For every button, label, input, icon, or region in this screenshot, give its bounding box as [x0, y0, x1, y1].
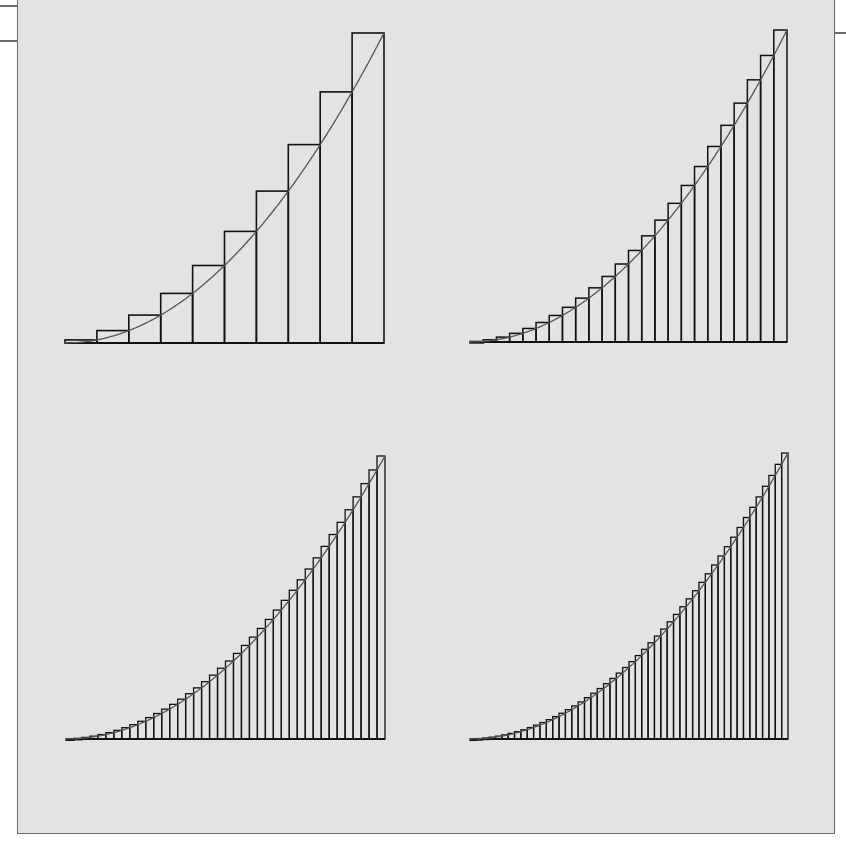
riemann-bar [782, 453, 788, 739]
riemann-bar [565, 710, 571, 739]
riemann-bar [629, 662, 635, 739]
riemann-bar [737, 527, 743, 739]
riemann-bar [661, 629, 667, 739]
riemann-bar [591, 693, 597, 739]
riemann-bar [775, 464, 781, 739]
riemann-bar [686, 599, 692, 739]
riemann-bar [604, 684, 610, 739]
riemann-bar [674, 614, 680, 739]
riemann-bar [584, 698, 590, 739]
riemann-bar [724, 547, 730, 739]
riemann-bar [597, 689, 603, 739]
riemann-bar [642, 649, 648, 739]
riemann-bar [705, 574, 711, 739]
riemann-bar [559, 713, 565, 739]
riemann-bar [763, 486, 769, 739]
riemann-bar [654, 636, 660, 739]
riemann-bar [712, 565, 718, 739]
riemann-bar [699, 582, 705, 739]
riemann-bar [553, 717, 559, 739]
riemann-bar [667, 622, 673, 739]
riemann-bar [680, 607, 686, 739]
riemann-bar [756, 497, 762, 739]
riemann-bar [610, 678, 616, 739]
riemann-bar [616, 673, 622, 739]
riemann-bar [623, 668, 629, 740]
riemann-bar [731, 537, 737, 739]
riemann-bar [743, 518, 749, 739]
riemann-bar [572, 706, 578, 739]
riemann-bar [718, 556, 724, 739]
riemann-panel-n50 [0, 0, 846, 856]
riemann-bar [648, 643, 654, 739]
riemann-bar [693, 591, 699, 739]
riemann-bar [769, 475, 775, 739]
riemann-bar [635, 656, 641, 739]
riemann-bar [750, 507, 756, 739]
riemann-bar [578, 702, 584, 739]
